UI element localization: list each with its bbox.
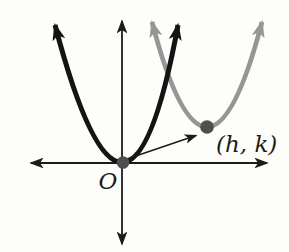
figure-background <box>0 0 289 252</box>
translated-vertex-dot <box>200 120 214 134</box>
diagram-canvas: O (h, k) <box>0 0 289 252</box>
origin-vertex-dot <box>117 156 130 169</box>
translated-vertex-label: (h, k) <box>216 131 277 157</box>
origin-label: O <box>99 168 118 194</box>
parabola-translation-figure: O (h, k) <box>0 0 289 252</box>
